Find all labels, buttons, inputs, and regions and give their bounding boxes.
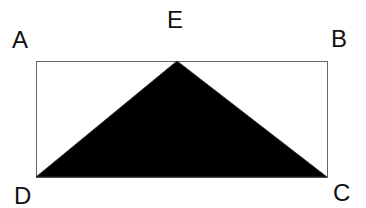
label-e: E [167,8,183,32]
label-a: A [12,28,28,52]
label-c: C [333,181,350,205]
label-d: D [14,184,31,208]
label-b: B [331,27,347,51]
